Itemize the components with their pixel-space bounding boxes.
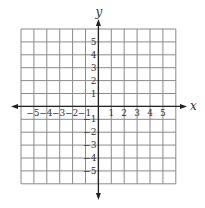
x-axis-left-arrow-icon xyxy=(11,104,18,109)
y-tick-label: −2 xyxy=(83,127,96,137)
y-axis-up-arrow-icon xyxy=(96,19,101,26)
x-tick-label: 1 xyxy=(108,108,114,118)
x-tick-label: 2 xyxy=(121,108,127,118)
x-axis-right-arrow-icon xyxy=(180,104,187,109)
y-tick-label: 3 xyxy=(91,63,97,73)
y-tick-label: −4 xyxy=(83,153,97,163)
x-tick-label: −2 xyxy=(65,108,78,118)
y-tick-label: 2 xyxy=(91,76,97,86)
x-tick-label: 3 xyxy=(134,108,140,118)
x-tick-label: 5 xyxy=(160,108,166,118)
x-tick-label: −4 xyxy=(39,108,53,118)
x-tick-label: −3 xyxy=(52,108,66,118)
y-tick-label: 4 xyxy=(91,50,97,60)
y-tick-label: −1 xyxy=(83,114,96,124)
coordinate-plane: −5−4−3−2−11234554321−1−2−3−4−5 x y xyxy=(0,0,205,208)
y-axis-label: y xyxy=(94,5,102,19)
y-tick-label: 1 xyxy=(91,89,97,99)
x-tick-label: 4 xyxy=(147,108,153,118)
y-tick-label: −5 xyxy=(83,166,97,176)
y-axis-down-arrow-icon xyxy=(96,193,101,200)
y-tick-label: 5 xyxy=(91,37,97,47)
x-axis-label: x xyxy=(190,99,197,113)
y-tick-label: −3 xyxy=(83,140,97,150)
x-tick-label: −5 xyxy=(26,108,40,118)
